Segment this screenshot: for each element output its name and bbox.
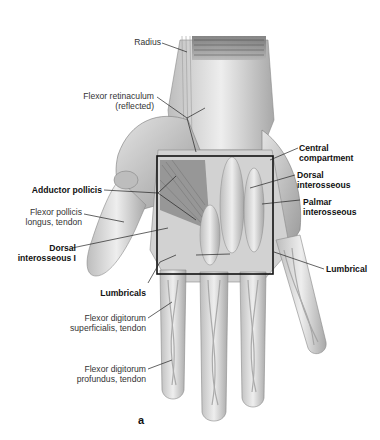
label-radius: Radius <box>115 37 161 47</box>
label-adductor-pollicis: Adductor pollicis <box>10 185 102 195</box>
label-dorsal-interosseous: Dorsal interosseous <box>297 170 351 190</box>
figure-caption: a <box>138 414 144 426</box>
label-lumbrical: Lumbrical <box>326 264 367 274</box>
label-flexor-pollicis-longus: Flexor pollicis longus, tendon <box>10 207 82 227</box>
label-flexor-digitorum-profundus: Flexor digitorum profundus, tendon <box>50 364 146 384</box>
label-palmar-interosseous: Palmar interosseous <box>303 197 357 217</box>
label-central-compartment: Central compartment <box>299 143 353 163</box>
label-flexor-digitorum-superficialis: Flexor digitorum superficialis, tendon <box>50 313 146 333</box>
anatomy-figure: Radius Flexor retinaculum (reflected) Ad… <box>0 0 380 440</box>
label-lumbricals: Lumbricals <box>80 288 146 298</box>
label-dorsal-interosseous-i: Dorsal interosseous I <box>4 243 76 263</box>
label-flexor-retinaculum: Flexor retinaculum (reflected) <box>60 91 154 111</box>
